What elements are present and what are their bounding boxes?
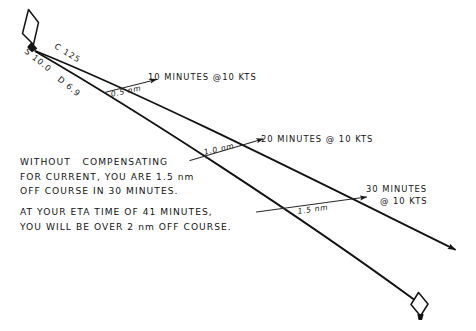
time-annotation-3-line1: 30 MINUTES xyxy=(366,184,427,195)
note-1-line-2: FOR CURRENT, YOU ARE 1.5 nm xyxy=(20,170,194,185)
time-annotation-1: 10 MINUTES @10 KTS xyxy=(148,72,257,83)
destination-buoy-icon xyxy=(411,293,428,320)
time-annotation-2: 20 MINUTES @ 10 KTS xyxy=(261,134,373,145)
note-1-line-1: WITHOUT COMPENSATING xyxy=(20,155,194,170)
note-1-line-3: OFF COURSE IN 30 MINUTES. xyxy=(20,184,194,199)
note-2-line-1: AT YOUR ETA TIME OF 41 MINUTES, xyxy=(20,205,232,220)
departure-buoy-icon xyxy=(23,10,39,52)
note-paragraph-2: AT YOUR ETA TIME OF 41 MINUTES, YOU WILL… xyxy=(20,205,232,234)
note-2-line-2: YOU WILL BE OVER 2 nm OFF COURSE. xyxy=(20,220,232,235)
note-paragraph-1: WITHOUT COMPENSATING FOR CURRENT, YOU AR… xyxy=(20,155,194,199)
time-annotation-3-line2: @ 10 KTS xyxy=(380,196,428,207)
